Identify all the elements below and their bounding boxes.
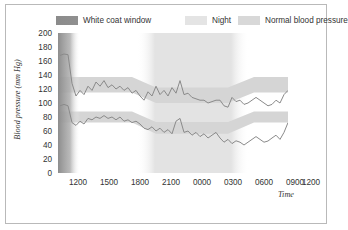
- plot-area: [58, 33, 288, 173]
- legend-item-night: Night: [185, 14, 231, 27]
- chart-legend: White coat window Night Normal blood pre…: [56, 14, 328, 27]
- legend-label-night: Night: [212, 16, 231, 25]
- y-tick-180: 180: [26, 43, 52, 52]
- legend-item-normal-blood-pressure: Normal blood pressure: [238, 14, 348, 27]
- y-tick-20: 20: [26, 155, 52, 164]
- legend-swatch-night: [185, 16, 207, 25]
- y-tick-40: 40: [26, 141, 52, 150]
- x-tick-2100: 2100: [156, 178, 186, 187]
- y-tick-80: 80: [26, 113, 52, 122]
- y-axis-label: Blood pressure (mm Hg): [13, 44, 22, 156]
- y-tick-140: 140: [26, 71, 52, 80]
- x-tick-1200-start: 1200: [63, 178, 93, 187]
- legend-item-white-coat-window: White coat window: [56, 14, 151, 27]
- y-tick-120: 120: [26, 85, 52, 94]
- chart-canvas: [58, 33, 288, 173]
- y-tick-160: 160: [26, 57, 52, 66]
- x-tick-0300: 0300: [218, 178, 248, 187]
- y-tick-0: 0: [26, 169, 52, 178]
- y-tick-60: 60: [26, 127, 52, 136]
- x-tick-0600: 0600: [249, 178, 279, 187]
- white-coat-window-band: [58, 33, 80, 173]
- x-tick-1500: 1500: [94, 178, 124, 187]
- legend-label-white-coat-window: White coat window: [83, 16, 151, 25]
- x-axis-label: Time: [278, 190, 294, 199]
- y-tick-200: 200: [26, 29, 52, 38]
- x-tick-0000: 0000: [187, 178, 217, 187]
- y-tick-100: 100: [26, 99, 52, 108]
- legend-swatch-normal-blood-pressure: [238, 16, 260, 25]
- legend-swatch-white-coat-window: [56, 16, 78, 25]
- legend-label-normal-blood-pressure: Normal blood pressure: [265, 16, 348, 25]
- x-tick-1800: 1800: [125, 178, 155, 187]
- x-tick-1200-end: 1200: [296, 178, 326, 187]
